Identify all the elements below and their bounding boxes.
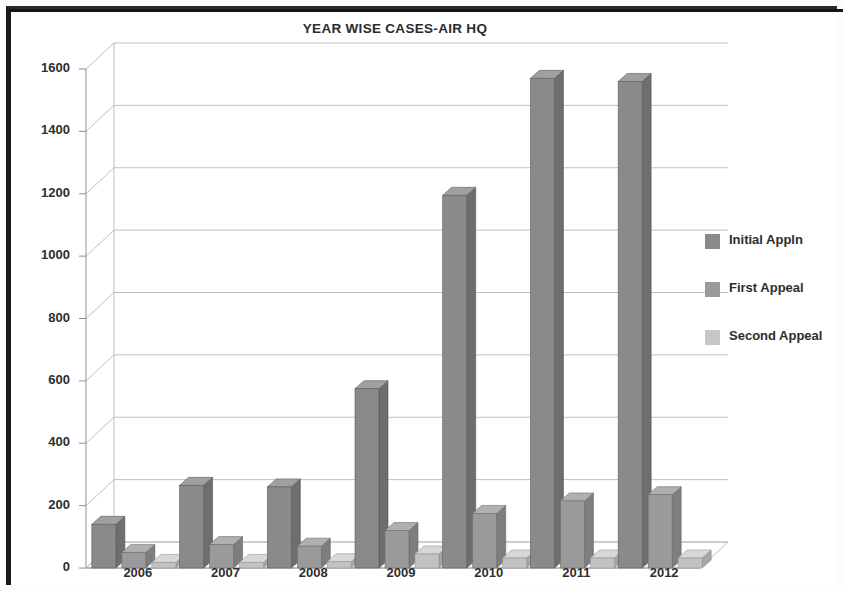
x-tick-label-2008: 2008 bbox=[273, 565, 353, 580]
y-tick-label: 1600 bbox=[14, 60, 70, 75]
bar-2012-first-appeal bbox=[648, 487, 681, 568]
chart-legend: Initial ApplnFirst AppealSecond Appeal bbox=[705, 228, 843, 372]
y-tick-label: 800 bbox=[14, 310, 70, 325]
legend-item-label: First Appeal bbox=[729, 280, 804, 295]
legend-swatch-icon bbox=[705, 330, 720, 345]
bar-2008-initial-appln bbox=[267, 479, 300, 568]
y-tick-label: 200 bbox=[14, 497, 70, 512]
x-tick-label-2006: 2006 bbox=[98, 565, 178, 580]
bar-2008-first-appeal bbox=[297, 538, 330, 568]
x-tick-label-2010: 2010 bbox=[449, 565, 529, 580]
y-tick-label: 1200 bbox=[14, 185, 70, 200]
bar-2011-initial-appln bbox=[530, 70, 563, 568]
bar-2009-first-appeal bbox=[385, 523, 418, 568]
bar-chart: YEAR WISE CASES-AIR HQ 02004006008001000… bbox=[0, 0, 843, 591]
bar-2011-first-appeal bbox=[560, 493, 593, 568]
legend-swatch-icon bbox=[705, 234, 720, 249]
bar-2012-initial-appln bbox=[618, 73, 651, 568]
legend-item-second-appeal[interactable]: Second Appeal bbox=[705, 324, 843, 372]
x-tick-label-2007: 2007 bbox=[186, 565, 266, 580]
bar-2009-initial-appln bbox=[355, 381, 388, 568]
legend-item-label: Second Appeal bbox=[729, 328, 822, 343]
bar-2010-initial-appln bbox=[443, 187, 476, 568]
y-tick-label: 600 bbox=[14, 372, 70, 387]
x-tick-label-2011: 2011 bbox=[536, 565, 616, 580]
y-tick-label: 0 bbox=[14, 559, 70, 574]
bar-2010-first-appeal bbox=[473, 505, 506, 568]
x-tick-label-2009: 2009 bbox=[361, 565, 441, 580]
bar-2007-first-appeal bbox=[210, 537, 243, 568]
x-tick-label-2012: 2012 bbox=[624, 565, 704, 580]
screenshot-root: YEAR WISE CASES-AIR HQ 02004006008001000… bbox=[0, 0, 843, 591]
legend-item-initial-appln[interactable]: Initial Appln bbox=[705, 228, 843, 276]
legend-item-label: Initial Appln bbox=[729, 232, 803, 247]
bar-2007-initial-appln bbox=[180, 477, 213, 568]
legend-item-first-appeal[interactable]: First Appeal bbox=[705, 276, 843, 324]
y-tick-label: 1400 bbox=[14, 122, 70, 137]
legend-swatch-icon bbox=[705, 282, 720, 297]
y-tick-label: 1000 bbox=[14, 247, 70, 262]
y-tick-label: 400 bbox=[14, 434, 70, 449]
bar-2006-initial-appln bbox=[92, 516, 125, 568]
